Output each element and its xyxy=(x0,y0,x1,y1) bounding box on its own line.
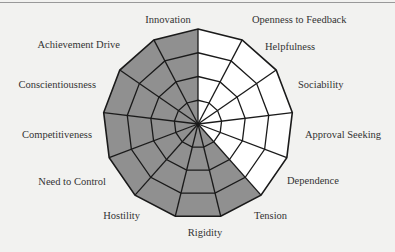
axis-label: Helpfulness xyxy=(265,41,315,52)
axis-label: Need to Control xyxy=(38,176,106,187)
radar-chart: Openness to FeedbackHelpfulnessSociabili… xyxy=(0,0,395,252)
axis-label: Competitiveness xyxy=(22,129,92,140)
axis-label: Innovation xyxy=(145,14,191,25)
axis-label: Rigidity xyxy=(188,227,223,238)
axis-label: Achievement Drive xyxy=(37,39,120,50)
axis-label: Tension xyxy=(254,210,288,221)
axis-label: Approval Seeking xyxy=(305,129,382,140)
axis-label: Dependence xyxy=(287,175,339,186)
axis-label: Conscientiousness xyxy=(18,79,96,90)
axis-label: Sociability xyxy=(298,79,344,90)
axis-label: Openness to Feedback xyxy=(252,14,347,25)
radar-svg: Openness to FeedbackHelpfulnessSociabili… xyxy=(0,0,395,252)
axis-label: Hostility xyxy=(103,210,141,221)
